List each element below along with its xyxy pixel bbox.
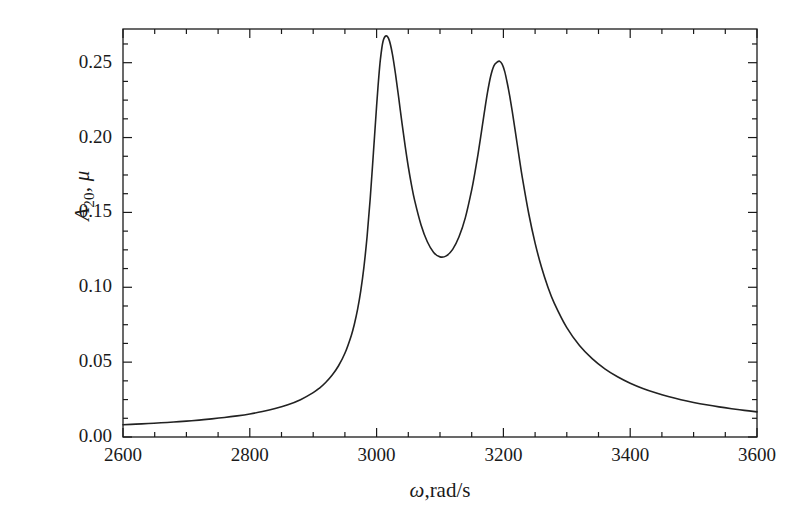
y-axis-label-unit: , μ: [70, 171, 94, 193]
x-tick-label: 3600: [722, 444, 792, 466]
figure-background: [0, 0, 802, 519]
y-tick-label: 0.00: [36, 425, 112, 447]
y-tick-label: 0.05: [36, 350, 112, 372]
x-tick-label: 3200: [468, 444, 538, 466]
amplitude-response-figure: A20, μ ω,rad/s 260028003000320034003600 …: [0, 0, 802, 519]
plot-canvas: [0, 0, 802, 519]
x-axis-label: ω,rad/s: [123, 478, 757, 503]
y-tick-label: 0.20: [36, 126, 112, 148]
x-tick-label: 3400: [595, 444, 665, 466]
y-tick-label: 0.15: [36, 200, 112, 222]
x-axis-label-unit: ,rad/s: [424, 478, 470, 502]
x-tick-label: 3000: [342, 444, 412, 466]
y-tick-label: 0.10: [36, 275, 112, 297]
chart-page: A20, μ ω,rad/s 260028003000320034003600 …: [0, 0, 802, 519]
x-tick-label: 2800: [215, 444, 285, 466]
x-axis-label-symbol: ω: [410, 478, 425, 502]
x-tick-label: 2600: [88, 444, 158, 466]
y-tick-label: 0.25: [36, 51, 112, 73]
